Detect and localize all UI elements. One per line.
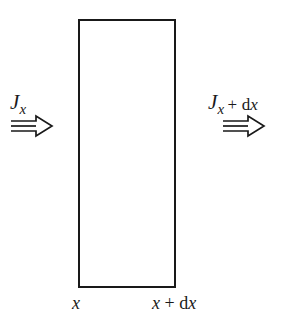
flux-out-symbol: Jx+ dx bbox=[208, 92, 266, 113]
flux-in-symbol-J: J bbox=[10, 90, 20, 114]
flux-in-subscript: x bbox=[20, 101, 27, 117]
flux-in-double-arrow-icon bbox=[10, 114, 54, 138]
flux-out-symbol-J: J bbox=[208, 90, 218, 114]
position-label-right: x + dx bbox=[152, 294, 196, 312]
position-label-left-var: x bbox=[72, 293, 80, 313]
position-label-right-d: d bbox=[179, 293, 188, 313]
flux-out-double-arrow-icon bbox=[222, 114, 266, 138]
flux-out-increment: + dx bbox=[227, 95, 258, 114]
flux-out-arrow-row bbox=[208, 114, 266, 138]
position-label-right-var: x bbox=[152, 293, 160, 313]
position-label-right-diff-var: x bbox=[188, 293, 196, 313]
position-label-right-operator: + bbox=[165, 293, 175, 313]
flux-diagram-figure: Jx Jx+ dx x x + dx bbox=[0, 0, 286, 320]
flux-in-label-group: Jx bbox=[10, 92, 54, 138]
position-label-left: x bbox=[72, 294, 80, 312]
flux-out-subscript: x bbox=[218, 101, 225, 117]
control-volume-rectangle bbox=[78, 19, 176, 288]
flux-out-label-group: Jx+ dx bbox=[208, 92, 266, 138]
flux-in-symbol: Jx bbox=[10, 92, 54, 113]
flux-out-increment-var: x bbox=[250, 95, 258, 114]
flux-in-arrow-row bbox=[10, 114, 54, 138]
flux-out-increment-operator: + bbox=[227, 95, 237, 114]
